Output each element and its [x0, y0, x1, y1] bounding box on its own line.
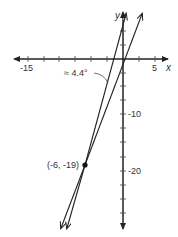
intersection-point	[82, 162, 87, 167]
angle-annotation: ≈ 4.4°	[64, 68, 88, 78]
y-tick-label-neg10: -10	[128, 109, 141, 119]
coordinate-graph: -15 5 x -10 -20	[0, 0, 178, 237]
less-steep-line	[61, 14, 142, 228]
x-axis-label: x	[165, 62, 172, 73]
steeper-line	[67, 14, 126, 228]
point-label: (-6, -19)	[47, 160, 79, 170]
y-axis-label: y	[114, 10, 121, 21]
y-tick-label-neg20: -20	[128, 166, 141, 176]
x-tick-label-neg15: -15	[20, 63, 33, 73]
angle-leader-line	[94, 73, 108, 83]
x-tick-label-5: 5	[152, 63, 157, 73]
x-axis: -15 5 x	[14, 56, 172, 73]
